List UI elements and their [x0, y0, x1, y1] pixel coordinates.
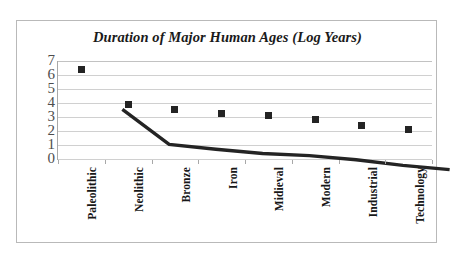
x-axis-category-label: Technology	[414, 167, 426, 224]
chart-title: Duration of Major Human Ages (Log Years)	[17, 29, 438, 46]
data-point-marker	[358, 122, 365, 129]
x-axis-category-label: Midieval	[273, 167, 285, 211]
plot-area	[58, 61, 432, 159]
y-axis-tick-label: 6	[33, 67, 55, 82]
y-axis-tick-label: 4	[33, 95, 55, 110]
x-axis-tick	[432, 160, 433, 164]
x-axis-tick	[198, 160, 199, 164]
x-axis-category-label: Neolithic	[133, 167, 145, 212]
y-axis-tick-label: 5	[33, 81, 55, 96]
x-axis-category-label: Iron	[227, 167, 239, 189]
data-point-marker	[312, 116, 319, 123]
data-point-marker	[405, 126, 412, 133]
gridline	[58, 61, 432, 62]
series-polyline	[122, 109, 449, 169]
x-axis-tick	[152, 160, 153, 164]
x-axis-tick	[105, 160, 106, 164]
y-axis-tick-label: 0	[33, 151, 55, 166]
y-axis-tick-labels: 01234567	[31, 61, 55, 159]
y-axis-tick-label: 3	[33, 109, 55, 124]
x-axis-tick	[385, 160, 386, 164]
x-axis-tick	[339, 160, 340, 164]
y-axis-tick-label: 2	[33, 123, 55, 138]
gridline	[58, 75, 432, 76]
x-axis-tick	[58, 160, 59, 164]
gridline	[58, 89, 432, 90]
data-point-marker	[78, 66, 85, 73]
data-point-marker	[125, 101, 132, 108]
y-axis-tick-label: 1	[33, 137, 55, 152]
x-axis-category-label: Industrial	[367, 167, 379, 217]
x-axis-category-label: Modern	[320, 167, 332, 207]
chart-frame: Duration of Major Human Ages (Log Years)…	[16, 20, 437, 243]
x-axis-category-label: Bronze	[180, 167, 192, 203]
x-axis-tick	[292, 160, 293, 164]
data-point-marker	[265, 112, 272, 119]
x-axis-tick	[245, 160, 246, 164]
x-axis-category-label: Paleolithic	[86, 167, 98, 220]
y-axis-tick-label: 7	[33, 53, 55, 68]
data-point-marker	[171, 106, 178, 113]
data-point-marker	[218, 110, 225, 117]
